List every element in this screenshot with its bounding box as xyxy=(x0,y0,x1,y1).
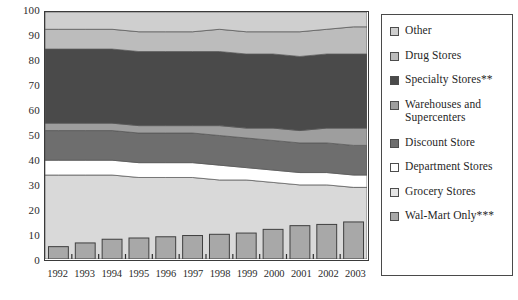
legend: OtherDrug StoresSpecialty Stores**Wareho… xyxy=(381,14,513,276)
y-axis: 1009080706050403020100 xyxy=(0,0,40,300)
x-axis-tick-label: 1997 xyxy=(179,268,206,288)
y-axis-tick-label: 100 xyxy=(14,5,40,16)
bar-wal-mart-only xyxy=(102,239,122,259)
legend-item-label: Drug Stores xyxy=(405,49,461,63)
plot-svg xyxy=(45,12,367,259)
legend-item[interactable]: Grocery Stores xyxy=(390,185,512,199)
x-axis-tick-label: 2003 xyxy=(342,268,369,288)
bar-wal-mart-only xyxy=(48,247,68,259)
bar-wal-mart-only xyxy=(75,243,95,259)
legend-swatch-icon xyxy=(390,139,399,148)
legend-swatch-icon xyxy=(390,212,399,221)
y-axis-tick-label: 40 xyxy=(14,155,40,166)
bar-wal-mart-only xyxy=(129,238,149,259)
x-axis-tick-label: 2001 xyxy=(288,268,315,288)
legend-item[interactable]: Warehouses and Supercenters xyxy=(390,98,512,125)
x-axis-tick-label: 1996 xyxy=(152,268,179,288)
y-axis-tick-label: 80 xyxy=(14,55,40,66)
legend-item[interactable]: Department Stores xyxy=(390,160,512,174)
legend-item-label: Grocery Stores xyxy=(405,185,476,199)
legend-item-label: Discount Store xyxy=(405,136,475,150)
legend-swatch-icon xyxy=(390,76,399,85)
bar-wal-mart-only xyxy=(236,233,256,259)
bar-wal-mart-only xyxy=(263,229,283,259)
bar-wal-mart-only xyxy=(344,222,364,259)
y-axis-tick-label: 0 xyxy=(14,255,40,266)
stacked-area-chart-figure: 1009080706050403020100 19921993199419951… xyxy=(0,0,518,300)
legend-swatch-icon xyxy=(390,188,399,197)
x-axis-tick-label: 2002 xyxy=(315,268,342,288)
area-band-other xyxy=(45,12,367,32)
x-axis-tick-label: 1994 xyxy=(98,268,125,288)
y-axis-tick-label: 30 xyxy=(14,180,40,191)
y-axis-tick-label: 50 xyxy=(14,130,40,141)
legend-item-label: Specialty Stores** xyxy=(405,73,493,87)
y-axis-tick-label: 20 xyxy=(14,205,40,216)
legend-item[interactable]: Drug Stores xyxy=(390,49,512,63)
legend-item-label: Warehouses and Supercenters xyxy=(405,98,481,125)
y-axis-tick-label: 90 xyxy=(14,30,40,41)
x-axis-tick-label: 1992 xyxy=(44,268,71,288)
legend-item[interactable]: Wal-Mart Only*** xyxy=(390,209,512,223)
x-axis-tick-label: 1995 xyxy=(125,268,152,288)
legend-item-label: Department Stores xyxy=(405,160,493,174)
x-axis-tick-label: 2000 xyxy=(261,268,288,288)
bar-wal-mart-only xyxy=(317,224,337,259)
x-axis-tick-label: 1993 xyxy=(71,268,98,288)
legend-item[interactable]: Other xyxy=(390,24,512,38)
legend-item-label: Wal-Mart Only*** xyxy=(405,209,494,223)
y-axis-tick-label: 10 xyxy=(14,230,40,241)
legend-swatch-icon xyxy=(390,27,399,36)
plot-area xyxy=(44,11,369,261)
legend-item-label: Other xyxy=(405,24,432,38)
y-axis-tick-label: 60 xyxy=(14,105,40,116)
x-axis-tick-label: 1999 xyxy=(234,268,261,288)
legend-item[interactable]: Discount Store xyxy=(390,136,512,150)
bar-wal-mart-only xyxy=(290,226,310,259)
legend-swatch-icon xyxy=(390,52,399,61)
legend-swatch-icon xyxy=(390,101,399,110)
bar-wal-mart-only xyxy=(209,234,229,259)
area-band-specialty-stores xyxy=(45,49,367,131)
legend-item[interactable]: Specialty Stores** xyxy=(390,73,512,87)
y-axis-tick-label: 70 xyxy=(14,80,40,91)
x-axis: 1992199319941995199619971998199920002001… xyxy=(44,268,369,288)
legend-swatch-icon xyxy=(390,163,399,172)
x-axis-tick-label: 1998 xyxy=(206,268,233,288)
bar-wal-mart-only xyxy=(183,236,203,259)
bar-wal-mart-only xyxy=(156,237,176,259)
